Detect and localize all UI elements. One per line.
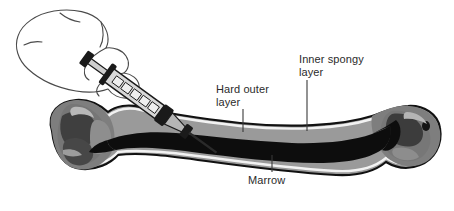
label-hard-outer-layer: Hard outer layer [216, 83, 269, 108]
label-marrow: Marrow [248, 174, 285, 187]
bone-injection-diagram: Hard outer layer Inner spongy layer Marr… [0, 0, 454, 211]
label-inner-spongy-layer: Inner spongy layer [299, 53, 364, 78]
